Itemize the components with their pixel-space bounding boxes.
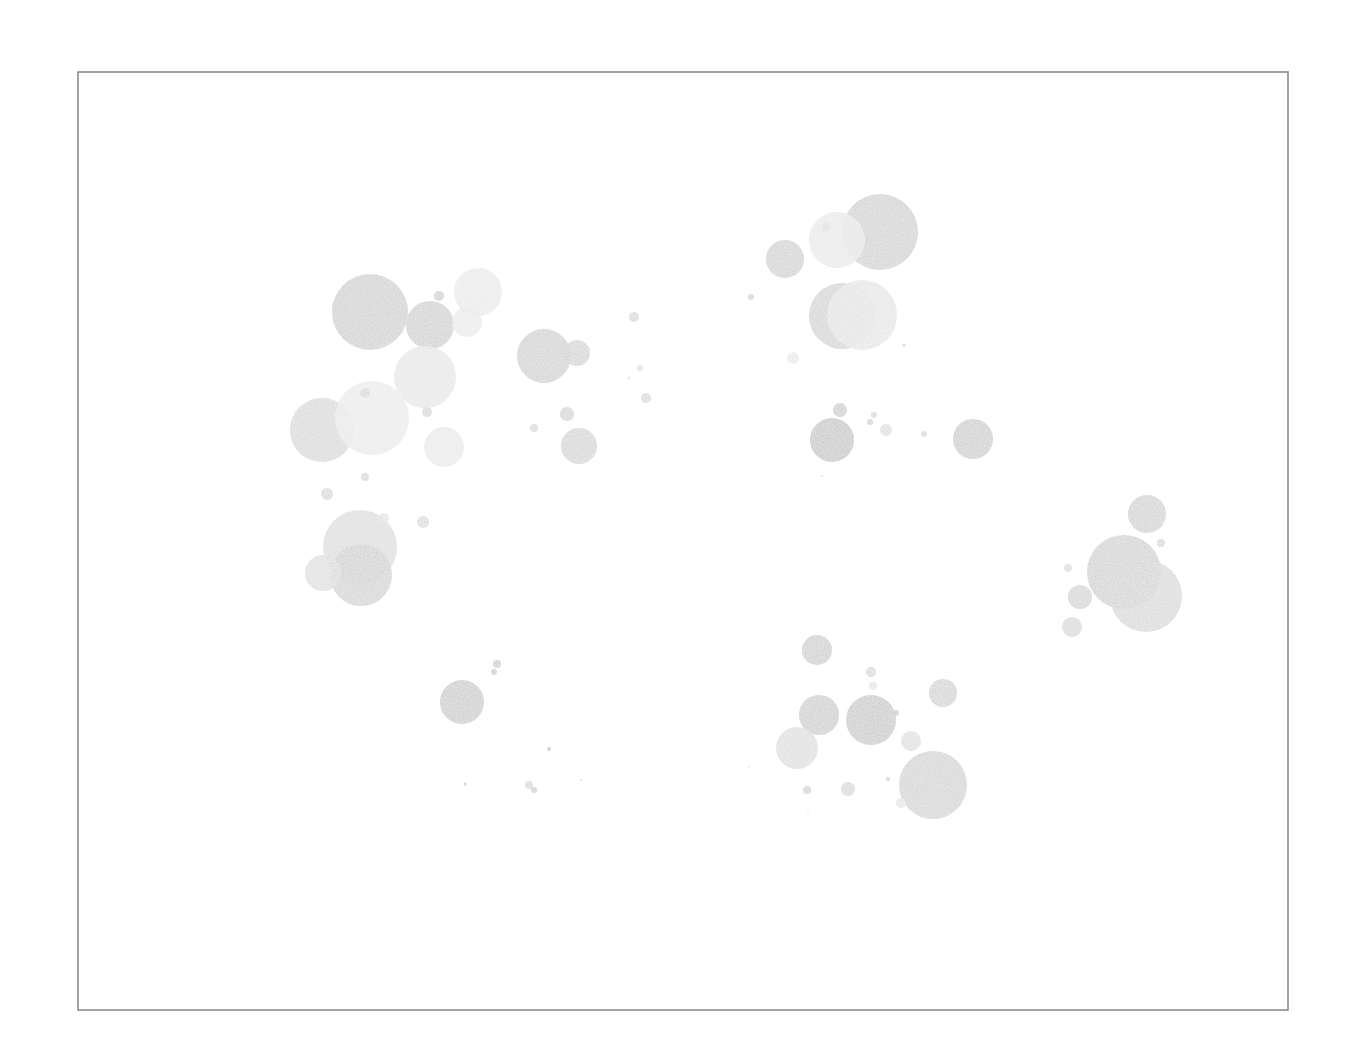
- data-point-bubble: [1068, 585, 1092, 609]
- data-point-bubble: [517, 329, 571, 383]
- data-point-bubble: [903, 344, 906, 347]
- data-point-bubble: [766, 240, 804, 278]
- data-point-bubble: [748, 294, 754, 300]
- data-point-bubble: [929, 679, 957, 707]
- data-point-bubble: [807, 812, 809, 814]
- data-point-bubble: [871, 412, 877, 418]
- data-point-bubble: [867, 419, 873, 425]
- data-point-bubble: [802, 635, 832, 665]
- data-point-bubble: [893, 710, 899, 716]
- data-point-bubble: [417, 516, 429, 528]
- data-point-bubble: [629, 312, 639, 322]
- data-point-bubble: [896, 798, 906, 808]
- bubble-series: [290, 194, 1182, 819]
- data-point-bubble: [866, 667, 876, 677]
- data-point-bubble: [564, 340, 590, 366]
- data-point-bubble: [953, 419, 993, 459]
- data-point-bubble: [787, 352, 799, 364]
- data-point-bubble: [886, 777, 890, 781]
- data-point-bubble: [869, 682, 877, 690]
- data-point-bubble: [809, 212, 865, 268]
- data-point-bubble: [424, 427, 464, 467]
- data-point-bubble: [1157, 539, 1165, 547]
- data-point-bubble: [561, 428, 597, 464]
- data-point-bubble: [637, 365, 643, 371]
- data-point-bubble: [776, 727, 818, 769]
- data-point-bubble: [422, 407, 432, 417]
- data-point-bubble: [335, 381, 409, 455]
- bubble-chart: [0, 0, 1364, 1064]
- data-point-bubble: [434, 291, 444, 301]
- data-point-bubble: [803, 786, 811, 794]
- data-point-bubble: [841, 782, 855, 796]
- data-point-bubble: [628, 377, 631, 380]
- data-point-bubble: [580, 779, 582, 781]
- data-point-bubble: [361, 473, 369, 481]
- data-point-bubble: [921, 431, 927, 437]
- data-point-bubble: [525, 781, 533, 789]
- data-point-bubble: [827, 280, 897, 350]
- data-point-bubble: [360, 388, 370, 398]
- data-point-bubble: [440, 680, 484, 724]
- data-point-bubble: [1062, 617, 1082, 637]
- data-point-bubble: [901, 731, 921, 751]
- data-point-bubble: [822, 223, 830, 231]
- data-point-bubble: [332, 274, 408, 350]
- data-point-bubble: [880, 424, 892, 436]
- data-point-bubble: [531, 787, 537, 793]
- data-point-bubble: [1128, 495, 1166, 533]
- data-point-bubble: [547, 747, 551, 751]
- data-point-bubble: [493, 660, 501, 668]
- data-point-bubble: [464, 783, 467, 786]
- data-point-bubble: [748, 766, 750, 768]
- data-point-bubble: [321, 488, 333, 500]
- data-point-bubble: [379, 513, 389, 523]
- data-point-bubble: [899, 751, 967, 819]
- data-point-bubble: [406, 301, 454, 349]
- data-point-bubble: [821, 475, 823, 477]
- data-point-bubble: [560, 407, 574, 421]
- data-point-bubble: [846, 695, 896, 745]
- data-point-bubble: [530, 424, 538, 432]
- data-point-bubble: [452, 307, 482, 337]
- data-point-bubble: [1110, 560, 1182, 632]
- data-point-bubble: [833, 403, 847, 417]
- data-point-bubble: [641, 393, 651, 403]
- data-point-bubble: [305, 555, 341, 591]
- data-point-bubble: [810, 418, 854, 462]
- data-point-bubble: [491, 669, 497, 675]
- data-point-bubble: [1064, 564, 1072, 572]
